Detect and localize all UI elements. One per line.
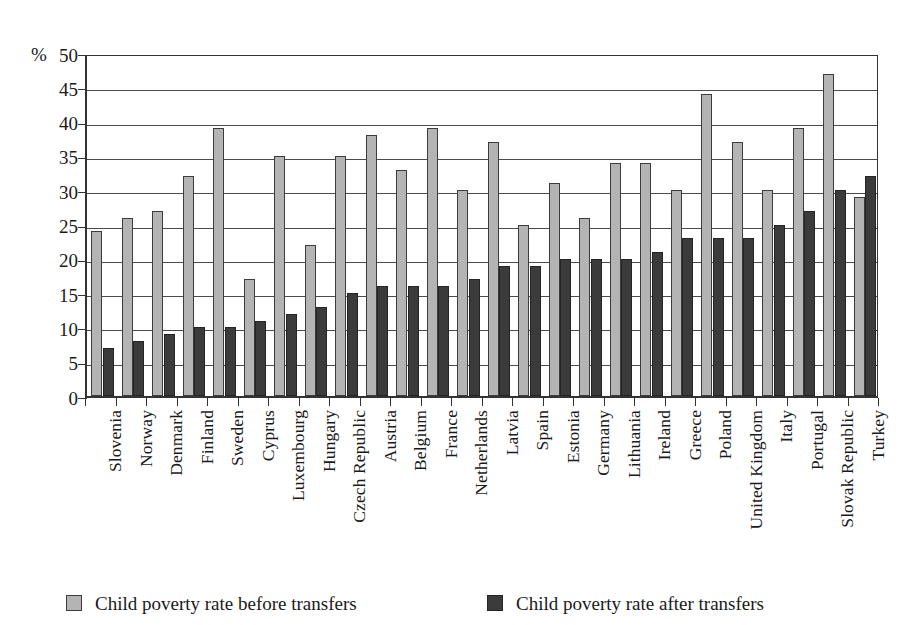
bar-after-transfers xyxy=(438,286,449,396)
y-tick-label: 10 xyxy=(38,320,78,339)
x-axis-label: Italy xyxy=(778,410,796,443)
bar-group xyxy=(762,56,785,396)
bar-before-transfers xyxy=(640,163,651,396)
x-axis-label: United Kingdom xyxy=(748,410,766,530)
bar-after-transfers xyxy=(560,259,571,396)
x-tick-mark xyxy=(665,398,666,406)
x-axis-label: Sweden xyxy=(229,410,247,466)
x-axis-label: France xyxy=(443,410,461,458)
bar-before-transfers xyxy=(610,163,621,396)
y-tick-label: 5 xyxy=(38,354,78,373)
bar-group xyxy=(335,56,358,396)
y-tick-label: 0 xyxy=(38,389,78,408)
x-tick-mark xyxy=(85,398,86,406)
bar-after-transfers xyxy=(621,259,632,396)
legend-entry[interactable]: Child poverty rate after transfers xyxy=(487,591,764,615)
bar-after-transfers xyxy=(316,307,327,396)
x-tick-mark xyxy=(756,398,757,406)
x-tick-mark xyxy=(116,398,117,406)
bar-after-transfers xyxy=(530,266,541,396)
bar-before-transfers xyxy=(274,156,285,396)
x-tick-mark xyxy=(878,398,879,406)
x-axis-label: Czech Republic xyxy=(351,410,369,523)
bar-group xyxy=(213,56,236,396)
x-axis-label: Ireland xyxy=(656,410,674,460)
bar-after-transfers xyxy=(103,348,114,396)
bar-before-transfers xyxy=(732,142,743,396)
x-tick-mark xyxy=(817,398,818,406)
bars-layer xyxy=(87,56,877,396)
bar-group xyxy=(579,56,602,396)
legend-swatch-before-icon xyxy=(66,595,82,611)
x-axis-label: Greece xyxy=(687,410,705,460)
bar-group xyxy=(183,56,206,396)
bar-group xyxy=(427,56,450,396)
y-tick-label: 20 xyxy=(38,251,78,270)
x-tick-mark xyxy=(299,398,300,406)
bar-before-transfers xyxy=(152,211,163,396)
x-axis-label: Lithuania xyxy=(626,410,644,478)
x-tick-mark xyxy=(573,398,574,406)
y-tick-label: 50 xyxy=(38,46,78,65)
chart-legend: Child poverty rate before transfersChild… xyxy=(0,591,901,619)
x-tick-mark xyxy=(329,398,330,406)
bar-group xyxy=(122,56,145,396)
bar-before-transfers xyxy=(762,190,773,396)
x-tick-mark xyxy=(543,398,544,406)
x-axis-label: Belgium xyxy=(412,410,430,471)
x-axis-label: Finland xyxy=(199,410,217,464)
x-axis-label: Turkey xyxy=(870,410,888,461)
bar-group xyxy=(396,56,419,396)
x-axis-label: Luxembourg xyxy=(290,410,308,501)
x-tick-mark xyxy=(360,398,361,406)
bar-after-transfers xyxy=(652,252,663,396)
x-axis-label: Austria xyxy=(382,410,400,462)
x-tick-mark xyxy=(512,398,513,406)
x-tick-mark xyxy=(848,398,849,406)
x-axis-label: Cyprus xyxy=(260,410,278,461)
bar-group xyxy=(274,56,297,396)
x-tick-mark xyxy=(421,398,422,406)
x-tick-mark xyxy=(634,398,635,406)
bar-before-transfers xyxy=(793,128,804,396)
bar-after-transfers xyxy=(774,225,785,397)
bar-after-transfers xyxy=(377,286,388,396)
bar-group xyxy=(549,56,572,396)
legend-label: Child poverty rate before transfers xyxy=(95,594,357,613)
x-axis-label: Slovak Republic xyxy=(839,410,857,528)
x-axis-label: Norway xyxy=(138,410,156,467)
y-tick-label: 35 xyxy=(38,148,78,167)
bar-group xyxy=(244,56,267,396)
x-axis-label: Latvia xyxy=(504,410,522,455)
legend-entry[interactable]: Child poverty rate before transfers xyxy=(66,591,357,615)
x-tick-mark xyxy=(177,398,178,406)
bar-after-transfers xyxy=(347,293,358,396)
bar-group xyxy=(701,56,724,396)
bar-after-transfers xyxy=(469,279,480,396)
y-tick-label: 40 xyxy=(38,114,78,133)
bar-group xyxy=(823,56,846,396)
bar-after-transfers xyxy=(408,286,419,396)
x-tick-mark xyxy=(695,398,696,406)
bar-before-transfers xyxy=(305,245,316,396)
bar-before-transfers xyxy=(335,156,346,396)
bar-before-transfers xyxy=(671,190,682,396)
legend-swatch-after-icon xyxy=(487,595,503,611)
bar-after-transfers xyxy=(835,190,846,396)
bar-before-transfers xyxy=(366,135,377,396)
bar-after-transfers xyxy=(499,266,510,396)
x-axis-label: Germany xyxy=(595,410,613,476)
plot-area xyxy=(85,55,878,398)
bar-before-transfers xyxy=(579,218,590,396)
bar-before-transfers xyxy=(396,170,407,396)
bar-before-transfers xyxy=(488,142,499,396)
bar-after-transfers xyxy=(682,238,693,396)
bar-after-transfers xyxy=(225,327,236,396)
x-axis-label: Estonia xyxy=(565,410,583,463)
x-axis-label: Spain xyxy=(534,410,552,450)
bar-before-transfers xyxy=(854,197,865,396)
bar-after-transfers xyxy=(194,327,205,396)
bar-group xyxy=(366,56,389,396)
bar-after-transfers xyxy=(865,176,876,396)
bar-before-transfers xyxy=(549,183,560,396)
